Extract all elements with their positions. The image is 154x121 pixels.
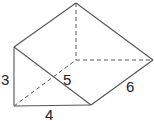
edge-hypotenuse bbox=[14, 47, 91, 105]
edge-length bbox=[91, 60, 153, 105]
prism-diagram: 3 4 5 6 bbox=[0, 0, 154, 121]
label-height: 3 bbox=[1, 71, 9, 88]
edge-top-left bbox=[14, 3, 76, 47]
label-base: 4 bbox=[45, 106, 53, 121]
label-hypotenuse: 5 bbox=[63, 71, 71, 88]
label-length: 6 bbox=[126, 78, 134, 95]
edge-top-right bbox=[76, 3, 153, 60]
